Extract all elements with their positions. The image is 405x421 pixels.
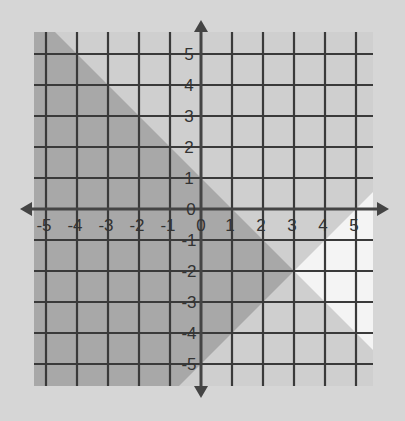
- x-tick-label: -4: [67, 216, 82, 235]
- y-axis-up-arrow-icon: [194, 20, 208, 32]
- x-tick-label: 2: [256, 216, 265, 235]
- x-tick-label: -3: [98, 216, 113, 235]
- y-tick-label: -4: [181, 324, 196, 343]
- y-tick-label: 2: [184, 138, 193, 157]
- y-tick-label: 1: [184, 169, 193, 188]
- y-tick-label: -3: [181, 293, 196, 312]
- inequality-graph: -5-4-3-2-1012345543210-1-2-3-4-5: [0, 0, 405, 421]
- y-tick-label: -1: [181, 231, 196, 250]
- y-tick-label: 0: [186, 200, 195, 219]
- x-axis-left-arrow-icon: [20, 202, 32, 216]
- x-tick-label: -5: [36, 216, 51, 235]
- x-tick-label: -2: [129, 216, 144, 235]
- x-tick-label: -1: [160, 216, 175, 235]
- y-tick-label: 4: [184, 76, 193, 95]
- x-tick-label: 5: [349, 216, 358, 235]
- x-axis-right-arrow-icon: [377, 202, 389, 216]
- y-axis-down-arrow-icon: [194, 386, 208, 398]
- x-tick-label: 1: [225, 216, 234, 235]
- y-tick-label: 3: [184, 107, 193, 126]
- y-tick-label: 5: [184, 45, 193, 64]
- x-tick-label: 3: [287, 216, 296, 235]
- y-tick-label: -5: [181, 355, 196, 374]
- y-tick-label: -2: [181, 262, 196, 281]
- x-tick-label: 0: [196, 216, 205, 235]
- x-tick-label: 4: [318, 216, 327, 235]
